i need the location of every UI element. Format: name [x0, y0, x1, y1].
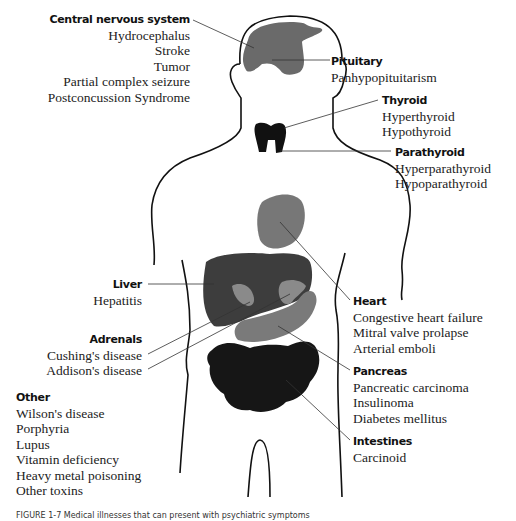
- label-other-item: Heavy metal poisoning: [16, 468, 141, 484]
- label-other-item: Porphyria: [16, 421, 141, 437]
- label-thyroid-item: Hypothyroid: [382, 124, 455, 140]
- leader-intestines: [286, 380, 350, 440]
- label-cns-item: Tumor: [20, 59, 190, 75]
- label-parathyroid-heading: Parathyroid: [395, 145, 491, 161]
- leader-thyroid: [284, 100, 378, 128]
- label-adrenals: Adrenals Cushing's disease Addison's dis…: [20, 332, 142, 379]
- label-other-item: Other toxins: [16, 483, 141, 499]
- label-pituitary: Pituitary Panhypopituitarism: [331, 54, 437, 85]
- label-pancreas: Pancreas Pancreatic carcinoma Insulinoma…: [353, 364, 469, 426]
- label-adrenals-item: Cushing's disease: [20, 348, 142, 364]
- label-thyroid-heading: Thyroid: [382, 93, 455, 109]
- label-parathyroid-item: Hyperparathyroid: [395, 161, 491, 177]
- label-other-item: Vitamin deficiency: [16, 452, 141, 468]
- brain-shape: [243, 22, 322, 75]
- label-thyroid: Thyroid Hyperthyroid Hypothyroid: [382, 93, 455, 140]
- label-pancreas-item: Insulinoma: [353, 395, 469, 411]
- label-parathyroid: Parathyroid Hyperparathyroid Hypoparathy…: [395, 145, 491, 192]
- label-heart-item: Congestive heart failure: [353, 310, 483, 326]
- body-outline-left-hip: [180, 260, 190, 473]
- label-parathyroid-item: Hypoparathyroid: [395, 176, 491, 192]
- heart-shape: [257, 195, 305, 249]
- label-liver: Liver Hepatitis: [40, 277, 142, 308]
- label-other: Other Wilson's disease Porphyria Lupus V…: [16, 390, 141, 499]
- body-outline-inner-legs: [248, 440, 270, 497]
- label-intestines-item: Carcinoid: [353, 450, 412, 466]
- label-other-item: Wilson's disease: [16, 406, 141, 422]
- thyroid-shape: [254, 123, 286, 153]
- label-other-heading: Other: [16, 390, 141, 406]
- label-heart-heading: Heart: [353, 294, 483, 310]
- label-thyroid-item: Hyperthyroid: [382, 109, 455, 125]
- label-other-item: Lupus: [16, 437, 141, 453]
- label-pancreas-item: Diabetes mellitus: [353, 411, 469, 427]
- label-cns-item: Hydrocephalus: [20, 28, 190, 44]
- label-heart-item: Arterial emboli: [353, 341, 483, 357]
- label-pituitary-item: Panhypopituitarism: [331, 70, 437, 86]
- label-cns-item: Partial complex seizure: [20, 74, 190, 90]
- label-pituitary-heading: Pituitary: [331, 54, 437, 70]
- label-intestines-heading: Intestines: [353, 434, 412, 450]
- label-intestines: Intestines Carcinoid: [353, 434, 412, 465]
- label-heart-item: Mitral valve prolapse: [353, 325, 483, 341]
- label-liver-item: Hepatitis: [40, 293, 142, 309]
- label-cns-heading: Central nervous system: [20, 12, 190, 28]
- label-adrenals-heading: Adrenals: [20, 332, 142, 348]
- label-cns-item: Postconcussion Syndrome: [20, 90, 190, 106]
- label-cns: Central nervous system Hydrocephalus Str…: [20, 12, 190, 105]
- label-adrenals-item: Addison's disease: [20, 363, 142, 379]
- intestines-shape: [207, 341, 319, 412]
- label-liver-heading: Liver: [40, 277, 142, 293]
- label-cns-item: Stroke: [20, 43, 190, 59]
- label-pancreas-heading: Pancreas: [353, 364, 469, 380]
- label-heart: Heart Congestive heart failure Mitral va…: [353, 294, 483, 356]
- figure-caption: FIGURE 1-7 Medical illnesses that can pr…: [16, 511, 310, 520]
- label-pancreas-item: Pancreatic carcinoma: [353, 380, 469, 396]
